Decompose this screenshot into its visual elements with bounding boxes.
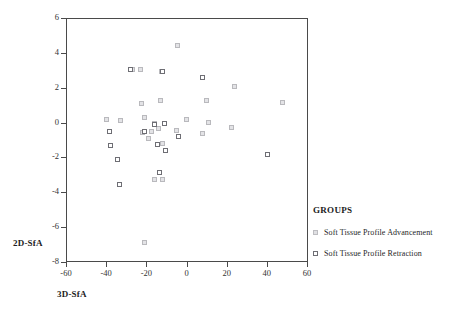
data-point [152, 177, 157, 182]
x-tick-label: 40 [252, 269, 282, 278]
legend: GROUPS Soft Tissue Profile Advancement S… [313, 205, 468, 270]
x-tick-label: -40 [91, 269, 121, 278]
legend-title: GROUPS [313, 205, 468, 215]
data-point [162, 121, 167, 126]
y-tick-label: 2 [37, 83, 59, 92]
x-tick-mark [187, 262, 188, 267]
data-point [146, 136, 151, 141]
x-tick-label: 20 [212, 269, 242, 278]
x-tick-mark [227, 262, 228, 267]
x-tick-label: -60 [51, 269, 81, 278]
x-axis-title: 3D-SfA [57, 289, 87, 299]
y-tick-label: -4 [37, 187, 59, 196]
y-tick-label: -8 [37, 257, 59, 266]
y-axis-title: 2D-SfA [13, 238, 43, 248]
data-point [204, 98, 209, 103]
data-point [117, 182, 122, 187]
x-tick-label: -20 [131, 269, 161, 278]
data-point [158, 98, 163, 103]
x-tick-mark [66, 262, 67, 267]
data-point [160, 69, 165, 74]
plot-right-border [307, 18, 308, 262]
data-point [118, 118, 123, 123]
y-tick-label: 4 [37, 48, 59, 57]
data-point [174, 128, 179, 133]
legend-item-retraction[interactable]: Soft Tissue Profile Retraction [313, 249, 468, 258]
data-point [152, 122, 157, 127]
data-point [104, 117, 109, 122]
data-point [108, 143, 113, 148]
data-point [206, 120, 211, 125]
legend-item-label: Soft Tissue Profile Retraction [324, 249, 422, 258]
x-tick-mark [106, 262, 107, 267]
x-tick-label: 0 [172, 269, 202, 278]
advancement-swatch-icon [313, 230, 318, 235]
data-point [138, 67, 143, 72]
legend-item-label: Soft Tissue Profile Advancement [324, 228, 433, 237]
data-point [155, 142, 160, 147]
data-point [160, 141, 165, 146]
data-point [157, 170, 162, 175]
data-point [200, 131, 205, 136]
plot-area [66, 18, 307, 262]
data-point [232, 84, 237, 89]
y-tick-label: -6 [37, 222, 59, 231]
data-point [229, 125, 234, 130]
data-point [142, 115, 147, 120]
y-tick-label: -2 [37, 152, 59, 161]
data-point [142, 240, 147, 245]
data-point [128, 67, 133, 72]
data-point [176, 134, 181, 139]
x-tick-mark [307, 262, 308, 267]
data-point [115, 157, 120, 162]
scatter-plot-figure: 6420-2-4-6-8 -60-40-200204060 2D-SfA 3D-… [0, 0, 470, 317]
data-point [280, 100, 285, 105]
data-point [163, 148, 168, 153]
y-tick-label: 6 [37, 13, 59, 22]
x-tick-mark [267, 262, 268, 267]
data-point [200, 75, 205, 80]
data-point [107, 129, 112, 134]
x-tick-mark [146, 262, 147, 267]
x-axis-line [66, 261, 308, 262]
data-point [156, 126, 161, 131]
data-point [142, 129, 147, 134]
data-point [160, 177, 165, 182]
retraction-swatch-icon [313, 251, 318, 256]
y-tick-label: 0 [37, 118, 59, 127]
data-point [265, 152, 270, 157]
x-tick-label: 60 [292, 269, 322, 278]
data-point [184, 117, 189, 122]
data-point [149, 129, 154, 134]
data-point [139, 101, 144, 106]
data-point [175, 43, 180, 48]
legend-item-advancement[interactable]: Soft Tissue Profile Advancement [313, 228, 468, 237]
